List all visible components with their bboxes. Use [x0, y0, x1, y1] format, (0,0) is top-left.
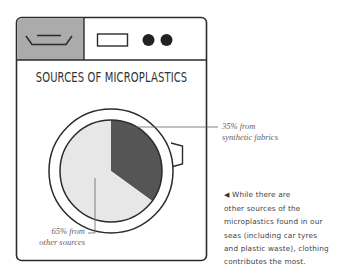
slice-label-synthetic-line1: 35% from [222, 121, 278, 132]
caption-line-3: microplastics found in our [224, 215, 349, 228]
left-triangle-icon: ◀ [224, 191, 230, 199]
slice-label-other-line1: 65% from [39, 226, 85, 237]
slice-label-synthetic: 35% from synthetic fabrics [222, 121, 278, 143]
control-knob-icon[interactable] [143, 34, 155, 46]
display-panel-icon [98, 34, 128, 46]
infographic: SOURCES OF MICROPLASTICS 35% from synthe… [0, 0, 349, 280]
caption-line-1: ◀ While there are [224, 188, 349, 202]
caption-line-4: seas (including car tyres [224, 229, 349, 242]
caption-line-2: other sources of the [224, 202, 349, 215]
caption-note: ◀ While there are other sources of the m… [224, 188, 349, 268]
caption-line-5: and plastic waste), clothing [224, 242, 349, 255]
slice-label-other-line2: other sources [39, 237, 85, 248]
caption-line-6: contributes the most. [224, 255, 349, 268]
control-knob-icon[interactable] [161, 34, 173, 46]
caption-line-1-text: While there are [232, 190, 290, 199]
slice-label-other: 65% from other sources [39, 226, 85, 248]
detergent-panel [17, 18, 84, 60]
slice-label-synthetic-line2: synthetic fabrics [222, 132, 278, 143]
chart-title: SOURCES OF MICROPLASTICS [33, 69, 190, 85]
